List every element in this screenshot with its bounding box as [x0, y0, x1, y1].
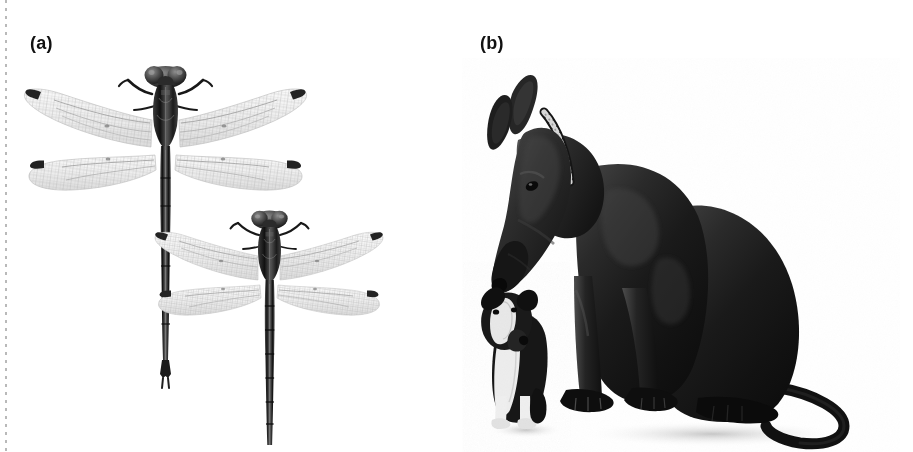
small-dragonfly-left-forewing	[155, 232, 258, 280]
large-dragonfly-right-hindwing	[175, 155, 302, 190]
panel-label-b: (b)	[480, 34, 504, 52]
figure-root: (a) (b)	[0, 0, 913, 452]
dragonflies-image	[14, 60, 444, 445]
small-dog-grain	[472, 278, 562, 438]
large-dragonfly-left-forewing	[24, 89, 152, 147]
large-dragonfly-left-hindwing	[29, 155, 156, 190]
small-dragonfly-left-hindwing	[158, 285, 261, 315]
large-dragonfly-right-forewing	[179, 89, 307, 147]
trim-dotted-line	[5, 0, 7, 452]
small-dragonfly	[155, 211, 383, 446]
large-dragonfly-abdomen	[160, 146, 171, 388]
panel-a-dragonflies	[14, 60, 444, 445]
small-dog	[472, 278, 562, 438]
panel-label-a: (a)	[30, 34, 53, 52]
dogs-image	[462, 58, 913, 452]
small-dragonfly-abdomen	[265, 280, 275, 445]
small-dragonfly-head	[251, 211, 287, 230]
large-dragonfly-head	[145, 66, 187, 88]
large-dragonfly-thorax	[153, 85, 178, 148]
panel-b-dogs	[462, 58, 913, 452]
small-dragonfly-thorax	[258, 227, 281, 282]
small-dragonfly-right-hindwing	[277, 285, 380, 315]
small-dragonfly-right-forewing	[280, 232, 383, 280]
